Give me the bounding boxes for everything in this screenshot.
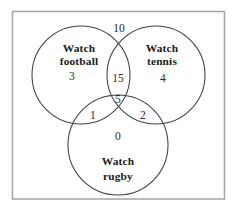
label-watch-rugby-line1: Watch [102,155,135,167]
venn-diagram-canvas: Watch football Watch tennis Watch rugby … [0,0,237,212]
label-watch-football-line2: football [60,55,99,67]
count-rugby-only: 0 [115,130,121,143]
label-watch-football-line1: Watch [63,42,96,54]
label-watch-tennis-line1: Watch [146,42,179,54]
count-tennis-only: 4 [160,72,166,85]
venn-diagram-figure: Watch football Watch tennis Watch rugby … [0,0,237,212]
label-watch-tennis-line2: tennis [147,55,177,67]
count-outside: 10 [113,22,125,35]
count-football-only: 3 [69,70,75,83]
count-football-tennis: 15 [112,72,124,85]
count-tennis-rugby: 2 [140,109,146,122]
label-watch-rugby-line2: rugby [103,170,133,182]
count-all-three: 5 [115,93,121,106]
count-football-rugby: 1 [90,109,96,122]
